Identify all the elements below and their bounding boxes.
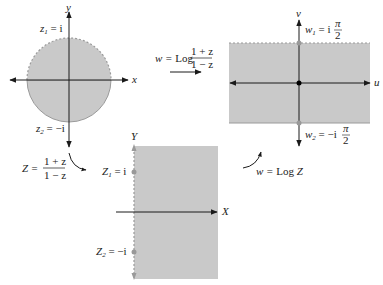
mapping-top-denominator: 1 − z [191, 58, 213, 70]
Z-plane: X Y Z1 = i Z2 = −i [96, 130, 230, 280]
v-axis-label: v [296, 7, 301, 19]
mapping-top-lhs: w = Log [155, 52, 193, 64]
mapping-left: Z = 1 + z 1 − z [22, 153, 86, 181]
mapping-arrow-curved-left [69, 153, 86, 170]
Z1-point [132, 170, 137, 175]
w1-point [297, 41, 302, 46]
w2-pi-numerator: π [343, 122, 349, 134]
origin-point [297, 81, 302, 86]
X-axis-label: X [221, 205, 230, 217]
w2-pi-denominator: 2 [343, 134, 349, 146]
mapping-right-text: w = Log Z [256, 165, 304, 177]
w2-label: w2 = −i [305, 128, 337, 142]
Y-axis-label: Y [131, 130, 139, 142]
w-plane: u v w1 = i π 2 w2 = −i π 2 [229, 7, 380, 146]
z2-label: z2 = −i [35, 122, 65, 136]
z1-label: z1 = i [39, 22, 63, 36]
x-axis-label: x [131, 73, 137, 85]
u-axis-label: u [374, 76, 380, 88]
mapping-right: w = Log Z [243, 152, 304, 177]
y-axis-label: y [65, 1, 71, 13]
w1-pi-denominator: 2 [335, 29, 341, 41]
Z1-label: Z1 = i [102, 165, 126, 179]
Z2-point [132, 250, 137, 255]
conformal-mapping-diagram: x y z1 = i z2 = −i w = Log 1 + z 1 − z u… [0, 0, 383, 285]
z-plane: x y z1 = i z2 = −i [10, 1, 137, 147]
mapping-top-numerator: 1 + z [191, 45, 213, 57]
w1-pi-numerator: π [335, 17, 341, 29]
mapping-left-numerator: 1 + z [44, 155, 66, 167]
Z2-label: Z2 = −i [96, 245, 127, 259]
mapping-left-denominator: 1 − z [44, 169, 66, 181]
mapping-left-lhs: Z = [22, 162, 38, 174]
w1-label: w1 = i [305, 23, 331, 37]
w2-point [297, 121, 302, 126]
mapping-top: w = Log 1 + z 1 − z [155, 45, 213, 72]
